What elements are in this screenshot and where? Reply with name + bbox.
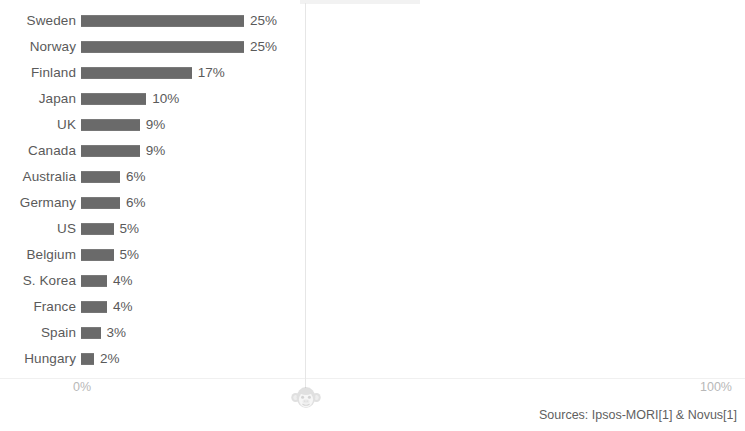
category-label: Spain	[0, 320, 76, 346]
bar-track: 6%	[81, 164, 745, 190]
bar-value-label: 17%	[198, 60, 225, 86]
bar-track: 4%	[81, 294, 745, 320]
bar-value-label: 10%	[152, 86, 179, 112]
bar-value-label: 25%	[250, 8, 277, 34]
bar-track: 9%	[81, 112, 745, 138]
axis-tick-right: 100%	[700, 380, 732, 394]
category-label: Canada	[0, 138, 76, 164]
bar-track: 4%	[81, 268, 745, 294]
bar-track: 5%	[81, 242, 745, 268]
chart-row: Belgium5%	[0, 242, 745, 268]
bar-value-label: 6%	[126, 164, 146, 190]
category-label: Australia	[0, 164, 76, 190]
bar	[81, 301, 107, 313]
bar-track: 3%	[81, 320, 745, 346]
bar-value-label: 25%	[250, 34, 277, 60]
plot-area: Sweden25%Norway25%Finland17%Japan10%UK9%…	[0, 8, 745, 373]
bar-track: 9%	[81, 138, 745, 164]
bar	[81, 119, 140, 131]
chart-row: Canada9%	[0, 138, 745, 164]
top-clipped-artifact	[300, 0, 420, 4]
category-label: Germany	[0, 190, 76, 216]
bar	[81, 15, 244, 27]
chart-row: US5%	[0, 216, 745, 242]
chart-row: Australia6%	[0, 164, 745, 190]
axis-baseline-rule	[0, 378, 745, 379]
category-label: S. Korea	[0, 268, 76, 294]
bar	[81, 171, 120, 183]
chart-row: Finland17%	[0, 60, 745, 86]
sources-note: Sources: Ipsos-MORI[1] & Novus[1]	[539, 408, 737, 422]
bar-value-label: 6%	[126, 190, 146, 216]
bar-value-label: 3%	[107, 320, 127, 346]
chart-row: Spain3%	[0, 320, 745, 346]
bar-value-label: 9%	[146, 112, 166, 138]
category-label: Finland	[0, 60, 76, 86]
bar	[81, 275, 107, 287]
category-label: US	[0, 216, 76, 242]
bar	[81, 223, 114, 235]
bar-track: 6%	[81, 190, 745, 216]
chart-row: Germany6%	[0, 190, 745, 216]
category-label: Norway	[0, 34, 76, 60]
category-label: Sweden	[0, 8, 76, 34]
bar	[81, 249, 114, 261]
bar-value-label: 5%	[120, 216, 140, 242]
chart-row: UK9%	[0, 112, 745, 138]
bar	[81, 67, 192, 79]
bar	[81, 353, 94, 365]
category-label: Japan	[0, 86, 76, 112]
bar	[81, 197, 120, 209]
chart-row: Norway25%	[0, 34, 745, 60]
bar-value-label: 4%	[113, 294, 133, 320]
bar-value-label: 9%	[146, 138, 166, 164]
axis-tick-left: 0%	[73, 380, 91, 394]
bar-track: 10%	[81, 86, 745, 112]
category-label: UK	[0, 112, 76, 138]
category-label: France	[0, 294, 76, 320]
bar-track: 25%	[81, 34, 745, 60]
bar	[81, 145, 140, 157]
bar	[81, 93, 146, 105]
chart-row: France4%	[0, 294, 745, 320]
bar-track: 5%	[81, 216, 745, 242]
category-label: Hungary	[0, 346, 76, 372]
bar-chart: Sweden25%Norway25%Finland17%Japan10%UK9%…	[0, 0, 745, 431]
bar-value-label: 4%	[113, 268, 133, 294]
bar-value-label: 5%	[120, 242, 140, 268]
bar	[81, 41, 244, 53]
monkey-face-icon	[290, 386, 322, 410]
bar-track: 17%	[81, 60, 745, 86]
category-label: Belgium	[0, 242, 76, 268]
bar	[81, 327, 101, 339]
chart-row: Japan10%	[0, 86, 745, 112]
chart-row: S. Korea4%	[0, 268, 745, 294]
chart-row: Hungary2%	[0, 346, 745, 372]
bar-track: 2%	[81, 346, 745, 372]
bar-track: 25%	[81, 8, 745, 34]
chart-row: Sweden25%	[0, 8, 745, 34]
bar-value-label: 2%	[100, 346, 120, 372]
